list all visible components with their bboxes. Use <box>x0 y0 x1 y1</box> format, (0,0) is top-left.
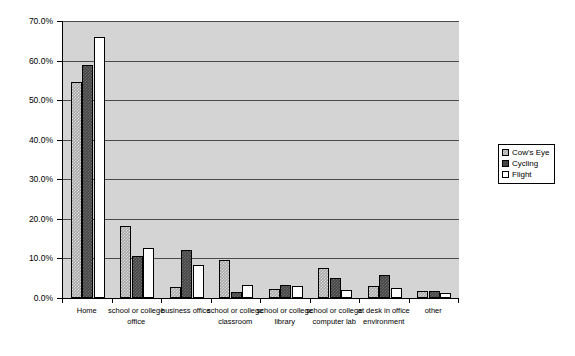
bar <box>132 256 143 298</box>
bar <box>120 226 131 298</box>
x-tick-mark <box>359 299 360 303</box>
legend-swatch-icon <box>502 171 509 178</box>
bar <box>292 286 303 298</box>
y-tick-label: 40.0% <box>29 135 53 144</box>
bar <box>330 278 341 298</box>
bar <box>269 289 280 298</box>
legend-swatch-icon <box>502 149 509 156</box>
bar <box>181 250 192 298</box>
bar <box>71 82 82 298</box>
bar <box>231 292 242 298</box>
bar <box>193 265 204 298</box>
y-tick-label: 0.0% <box>34 294 53 303</box>
chart-legend: Cow's EyeCyclingFlight <box>498 144 555 184</box>
y-axis: 0.0%10.0%20.0%30.0%40.0%50.0%60.0%70.0% <box>0 0 62 320</box>
x-axis: Homeschool or college officebusiness off… <box>62 299 459 356</box>
x-tick-mark <box>62 299 63 303</box>
legend-item[interactable]: Flight <box>502 169 550 180</box>
bar <box>318 268 329 298</box>
legend-label: Flight <box>512 171 532 179</box>
bar <box>143 248 154 298</box>
y-tick-label: 20.0% <box>29 215 53 224</box>
y-tick-label: 50.0% <box>29 96 53 105</box>
bar-chart: 0.0%10.0%20.0%30.0%40.0%50.0%60.0%70.0% … <box>0 0 575 356</box>
bar <box>82 65 93 298</box>
bar <box>94 37 105 298</box>
x-tick-mark <box>409 299 410 303</box>
plot-area <box>62 21 459 299</box>
x-tick-mark <box>458 299 459 303</box>
legend-label: Cycling <box>512 160 538 168</box>
legend-item[interactable]: Cow's Eye <box>502 147 550 158</box>
y-tick-label: 60.0% <box>29 56 53 65</box>
y-tick-label: 30.0% <box>29 175 53 184</box>
bar <box>440 293 451 298</box>
bar <box>429 291 440 298</box>
bar <box>219 260 230 298</box>
bar <box>170 287 181 298</box>
bar <box>242 285 253 298</box>
y-tick-label: 70.0% <box>29 17 53 26</box>
bar <box>280 285 291 298</box>
legend-label: Cow's Eye <box>512 149 550 157</box>
x-tick-mark <box>112 299 113 303</box>
bar <box>341 290 352 298</box>
x-tick-mark <box>161 299 162 303</box>
legend-swatch-icon <box>502 160 509 167</box>
bars-layer <box>63 21 459 298</box>
bar <box>379 275 390 298</box>
x-tick-mark <box>260 299 261 303</box>
y-tick-label: 10.0% <box>29 254 53 263</box>
legend-item[interactable]: Cycling <box>502 158 550 169</box>
bar <box>391 288 402 298</box>
x-tick-label: other <box>402 306 464 317</box>
x-tick-mark <box>310 299 311 303</box>
bar <box>368 286 379 298</box>
bar <box>417 291 428 298</box>
x-tick-mark <box>211 299 212 303</box>
